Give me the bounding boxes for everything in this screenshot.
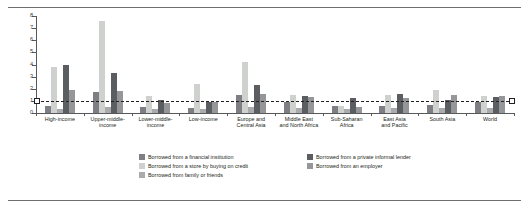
bar-group: [466, 16, 514, 113]
legend-item-store-credit[interactable]: Borrowed from a store by buying on credi…: [139, 163, 307, 169]
bar: [212, 102, 218, 113]
y-tick-label: 7: [30, 25, 32, 31]
x-tick: [371, 113, 372, 116]
x-category-label: Low-income: [189, 116, 218, 122]
bar: [451, 95, 457, 113]
x-tick: [418, 113, 419, 116]
reference-line-marker-left: [34, 98, 40, 104]
legend-swatch-icon: [139, 163, 145, 169]
x-category-label: High-income: [45, 116, 75, 122]
legend-row: Borrowed from family or friends: [139, 172, 469, 178]
legend-row: Borrowed from a store by buying on credi…: [139, 163, 469, 169]
legend-label: Borrowed from a private informal lender: [316, 154, 411, 160]
top-divider-rule: [8, 7, 521, 8]
y-tick-label: 2: [30, 86, 32, 92]
legend-swatch-icon: [307, 163, 313, 169]
x-tick: [227, 113, 228, 116]
chart-legend: Borrowed from a financial institution Bo…: [139, 154, 469, 182]
plot-area: [36, 16, 514, 113]
x-tick: [36, 113, 37, 116]
x-tick: [84, 113, 85, 116]
bar-group: [227, 16, 275, 113]
bar: [308, 97, 314, 113]
x-category-label: Upper-middle-income: [91, 116, 125, 128]
legend-label: Borrowed from a financial institution: [148, 154, 233, 160]
legend-swatch-icon: [139, 172, 145, 178]
legend-item-employer[interactable]: Borrowed from an employer: [307, 163, 467, 169]
chart-container: 012345678 High-incomeUpper-middle-income…: [0, 0, 529, 208]
reference-line: [36, 101, 514, 102]
legend-row: Borrowed from a financial institution Bo…: [139, 154, 469, 160]
bar-group: [132, 16, 180, 113]
bar: [356, 107, 362, 113]
bar: [260, 94, 266, 113]
x-category-label: World: [483, 116, 497, 122]
bottom-divider-rule: [8, 200, 521, 201]
bar-group: [179, 16, 227, 113]
y-tick-label: 5: [30, 50, 32, 56]
y-tick-label: 1: [30, 98, 32, 104]
legend-label: Borrowed from a store by buying on credi…: [148, 163, 248, 169]
bar-group: [275, 16, 323, 113]
legend-item-family-friends[interactable]: Borrowed from family or friends: [139, 172, 307, 178]
legend-label: Borrowed from family or friends: [148, 172, 223, 178]
bar: [242, 62, 248, 113]
x-category-label: South Asia: [429, 116, 455, 122]
x-tick: [323, 113, 324, 116]
x-category-label: Middle Eastand North Africa: [280, 116, 319, 128]
y-tick-label: 6: [30, 37, 32, 43]
x-category-label: Lower-middle-income: [138, 116, 172, 128]
legend-item-private-informal-lender[interactable]: Borrowed from a private informal lender: [307, 154, 467, 160]
reference-line-marker-right: [509, 98, 515, 104]
y-tick-label: 3: [30, 74, 32, 80]
bar: [499, 96, 505, 113]
bar-group: [371, 16, 419, 113]
x-tick: [466, 113, 467, 116]
legend-swatch-icon: [307, 154, 313, 160]
x-category-label: Europe andCentral Asia: [237, 116, 266, 128]
bar: [99, 21, 105, 113]
x-tick: [179, 113, 180, 116]
bar-group: [418, 16, 466, 113]
legend-label: Borrowed from an employer: [316, 163, 383, 169]
bar-group: [84, 16, 132, 113]
legend-swatch-icon: [139, 154, 145, 160]
bar-group: [323, 16, 371, 113]
bar: [117, 91, 123, 113]
bar: [164, 103, 170, 113]
y-tick-label: 8: [30, 13, 32, 19]
bar: [51, 67, 57, 113]
legend-item-financial-institution[interactable]: Borrowed from a financial institution: [139, 154, 307, 160]
y-tick-label: 4: [30, 62, 32, 68]
x-category-label: Sub-SaharanAfrica: [331, 116, 363, 128]
x-tick: [275, 113, 276, 116]
bar-group: [36, 16, 84, 113]
y-tick-label: 0: [30, 110, 32, 116]
x-category-label: East Asiaand Pacific: [381, 116, 407, 128]
x-tick: [132, 113, 133, 116]
x-tick: [514, 113, 515, 116]
